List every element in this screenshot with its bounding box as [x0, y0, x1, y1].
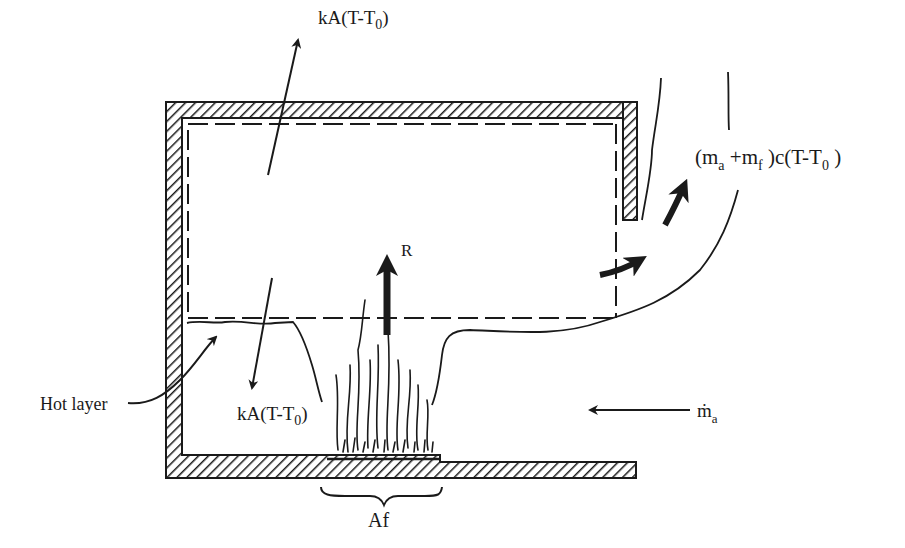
floor-heat-loss-arrow	[252, 278, 272, 388]
fire-area-label: Af	[368, 509, 389, 531]
control-volume	[188, 124, 617, 318]
arrows	[128, 40, 690, 410]
hot-layer-boundary	[187, 72, 738, 405]
fire-area-brace	[321, 487, 442, 505]
door-outflow-arrow-lower	[600, 260, 640, 275]
outflow-label: (ma +mf )c(T-T0 )	[695, 145, 841, 173]
inflow-label: ṁa	[697, 400, 718, 426]
right-wall-lintel	[623, 102, 637, 220]
compartment-fire-diagram: kA(T-T0) kA(T-T0) (ma +mf )c(T-T0 ) R ṁa…	[0, 0, 905, 548]
ceiling-loss-label: kA(T-T0)	[318, 7, 389, 32]
door-outflow-arrow-upper	[665, 186, 684, 225]
hot-layer-label: Hot layer	[40, 394, 107, 414]
radiation-label: R	[401, 241, 413, 260]
floor-loss-label: kA(T-T0)	[237, 403, 308, 428]
